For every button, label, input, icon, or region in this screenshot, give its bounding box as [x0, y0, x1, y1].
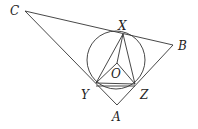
geometry-diagram: C X B O Y Z A — [0, 0, 198, 129]
label-y: Y — [81, 88, 90, 102]
segment-ox — [117, 34, 123, 63]
label-b: B — [177, 39, 187, 53]
label-a: A — [111, 110, 121, 124]
label-c: C — [10, 4, 19, 18]
label-x: X — [117, 19, 127, 33]
label-z: Z — [139, 88, 149, 102]
label-o: O — [111, 67, 121, 81]
triangle-abc — [25, 11, 173, 105]
